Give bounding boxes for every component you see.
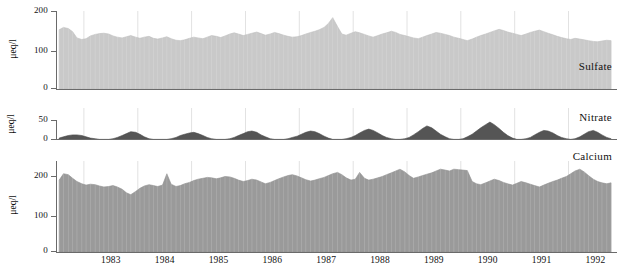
y-tick-nitrate-50: 50 xyxy=(20,114,48,124)
x-tick-label-1989: 1989 xyxy=(412,255,456,265)
calcium-area-svg xyxy=(57,161,617,252)
y-tick-sulfate-200: 200 xyxy=(20,5,48,15)
series-label-nitrate: Nitrate xyxy=(579,111,612,123)
y-axis-label-nitrate: μeq/l xyxy=(6,102,16,146)
y-tick-sulfate-0: 0 xyxy=(20,82,48,92)
panel-sulfate: μeq/l 200 100 0 xyxy=(0,0,622,100)
x-tick-label-1988: 1988 xyxy=(358,255,402,265)
x-tick-label-1984: 1984 xyxy=(143,255,187,265)
x-axis-baseline-nitrate xyxy=(56,139,617,140)
series-label-calcium: Calcium xyxy=(573,150,612,162)
panel-nitrate: μeq/l 50 0 xyxy=(0,103,622,151)
x-axis-baseline-calcium xyxy=(56,252,617,253)
x-tick-label-1991: 1991 xyxy=(520,255,564,265)
figure-root: μeq/l 200 100 0 xyxy=(0,0,622,275)
nitrate-area-path xyxy=(59,122,611,140)
y-tick-sulfate-100: 100 xyxy=(20,45,48,55)
x-tick-label-1986: 1986 xyxy=(250,255,294,265)
x-tick-label-1987: 1987 xyxy=(304,255,348,265)
x-tick-label-1990: 1990 xyxy=(466,255,510,265)
y-axis-label-sulfate: μeq/l xyxy=(8,27,18,71)
plot-area-nitrate xyxy=(57,108,617,140)
x-axis-baseline-sulfate xyxy=(56,89,617,90)
nitrate-area-svg xyxy=(57,108,617,140)
x-tick-label-1985: 1985 xyxy=(197,255,241,265)
x-tick-label-1992: 1992 xyxy=(573,255,617,265)
plot-area-sulfate xyxy=(57,11,617,89)
calcium-area-path xyxy=(59,169,611,252)
y-tick-nitrate-0: 0 xyxy=(20,133,48,143)
sulfate-area-svg xyxy=(57,11,617,89)
y-axis-label-calcium: μeq/l xyxy=(8,183,18,227)
y-tick-calcium-0: 0 xyxy=(20,245,48,255)
x-tick-label-1983: 1983 xyxy=(89,255,133,265)
series-label-sulfate: Sulfate xyxy=(579,60,612,72)
panel-calcium: μeq/l 200 100 0 xyxy=(0,152,622,275)
plot-area-calcium xyxy=(57,161,617,252)
y-tick-calcium-100: 100 xyxy=(20,210,48,220)
sulfate-area-path xyxy=(59,18,611,89)
y-tick-calcium-200: 200 xyxy=(20,170,48,180)
